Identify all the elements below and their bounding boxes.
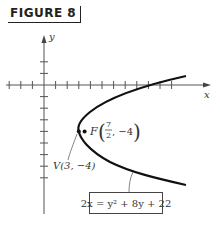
svg-text:7: 7 — [106, 120, 111, 129]
focus-label: F ( 7 2 , −4 ) — [89, 120, 141, 144]
focus-point — [83, 129, 87, 133]
equation-box: 2x = y² + 8y + 22 — [89, 192, 163, 214]
svg-text:2: 2 — [106, 131, 111, 140]
vertex-leader-line — [68, 134, 77, 160]
x-axis-arrow-icon — [203, 83, 211, 88]
equation-leader-line — [129, 172, 133, 192]
vertex-point — [77, 129, 81, 133]
svg-text:, −4: , −4 — [112, 126, 133, 137]
vertex-label: V(3, −4) — [53, 160, 96, 171]
svg-text:): ) — [133, 120, 141, 144]
x-axis-label: x — [204, 89, 210, 100]
svg-text:F: F — [89, 125, 98, 138]
svg-text:(: ( — [98, 120, 106, 144]
y-axis-label: y — [48, 31, 55, 42]
y-axis-arrow-icon — [42, 35, 47, 43]
